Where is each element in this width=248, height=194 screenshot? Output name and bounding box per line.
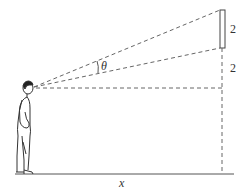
angle-arc [97, 61, 98, 73]
viewing-angle-diagram: 2 2 θ x [0, 0, 248, 194]
gap-height-label: 2 [230, 61, 236, 75]
sight-line-bottom [34, 48, 220, 87]
person-figure [16, 81, 33, 174]
sight-line-top [34, 10, 220, 87]
screen-rectangle [220, 10, 225, 48]
distance-label: x [118, 176, 125, 190]
screen-height-label: 2 [230, 22, 236, 36]
angle-label: θ [101, 59, 107, 73]
